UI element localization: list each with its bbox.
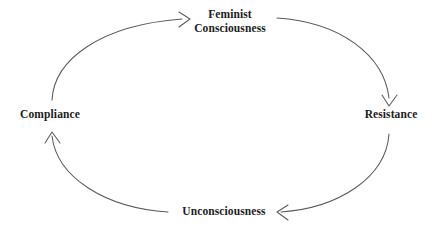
node-label-line-2: Consciousness (194, 22, 266, 34)
arrowhead-left-icon (277, 205, 288, 220)
edge-feminist-consciousness-to-resistance (277, 18, 397, 106)
arrowhead-down-icon (382, 95, 397, 106)
node-label-feminist-consciousness: Feminist Consciousness (180, 8, 280, 35)
cycle-diagram-canvas: Feminist Consciousness Resistance Uncons… (0, 0, 440, 236)
node-label-unconsciousness: Unconsciousness (174, 205, 274, 219)
edge-resistance-to-unconsciousness (277, 134, 389, 220)
node-label-resistance: Resistance (341, 108, 440, 122)
node-label-compliance: Compliance (0, 108, 100, 122)
edge-compliance-to-feminist-consciousness (52, 12, 190, 100)
node-label-line-1: Feminist (208, 8, 252, 20)
edge-unconsciousness-to-compliance (45, 132, 168, 212)
